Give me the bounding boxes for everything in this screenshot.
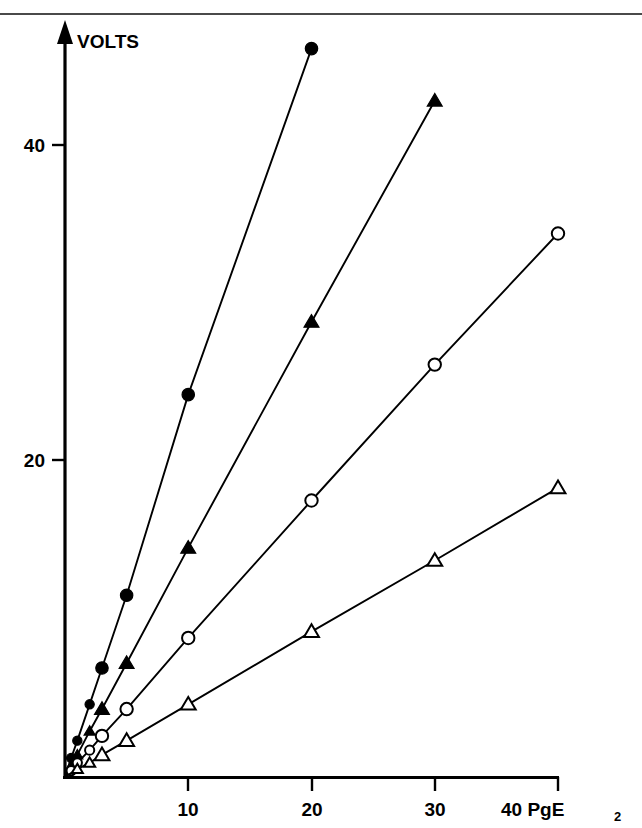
data-point-open-circle <box>120 703 132 715</box>
line-chart-canvas: 20 40 10 20 30 VOLTS 40 PgE 2 <box>0 0 642 828</box>
data-point-open-triangle <box>95 748 110 761</box>
figure-page: 20 40 10 20 30 VOLTS 40 PgE 2 <box>0 0 642 828</box>
data-point-filled-circle <box>73 736 82 745</box>
y-axis-ticks <box>52 145 65 460</box>
data-point-filled-triangle <box>181 541 196 554</box>
data-point-filled-circle <box>85 700 94 709</box>
data-point-filled-triangle <box>304 315 319 328</box>
y-axis-arrow-icon <box>57 20 73 44</box>
data-point-filled-circle <box>96 662 108 674</box>
data-point-open-triangle <box>119 733 134 746</box>
x-tick-label-10: 10 <box>177 799 198 820</box>
x-tick-label-30: 30 <box>424 799 445 820</box>
data-point-open-circle <box>552 227 564 239</box>
data-point-open-triangle <box>551 481 566 494</box>
data-point-filled-triangle <box>84 726 95 735</box>
series-open-circle <box>65 227 564 777</box>
data-point-filled-circle <box>305 42 317 54</box>
data-point-open-circle <box>85 746 94 755</box>
data-point-open-circle <box>96 730 108 742</box>
series-filled-circle <box>65 42 318 777</box>
series-line-filled-triangle <box>65 101 435 777</box>
data-point-filled-triangle <box>95 702 110 715</box>
y-tick-label-20: 20 <box>24 450 45 471</box>
data-series-layer <box>65 42 565 777</box>
data-point-open-circle <box>305 494 317 506</box>
data-point-open-triangle <box>304 624 319 637</box>
x-tick-label-20: 20 <box>301 799 322 820</box>
data-point-filled-circle <box>120 589 132 601</box>
data-point-open-circle <box>429 358 441 370</box>
chart-figure: 20 40 10 20 30 VOLTS 40 PgE 2 <box>0 0 642 828</box>
y-axis <box>57 20 73 779</box>
x-axis-title: 40 PgE <box>501 799 564 820</box>
y-axis-title: VOLTS <box>77 31 139 52</box>
x-axis-title-subscript: 2 <box>614 809 621 824</box>
y-tick-label-40: 40 <box>24 135 45 156</box>
series-open-triangle <box>65 481 565 777</box>
data-point-filled-circle <box>182 388 194 400</box>
data-point-open-circle <box>182 632 194 644</box>
series-filled-triangle <box>65 93 442 777</box>
data-point-filled-triangle <box>427 93 442 106</box>
data-point-open-triangle <box>427 553 442 566</box>
data-point-filled-triangle <box>119 656 134 669</box>
data-point-open-triangle <box>84 757 95 766</box>
data-point-open-triangle <box>181 697 196 710</box>
